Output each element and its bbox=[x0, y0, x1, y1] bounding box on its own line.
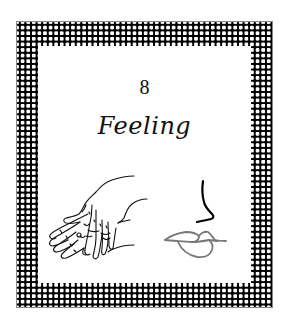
nose-icon bbox=[197, 181, 213, 222]
illustration-layer bbox=[0, 0, 287, 326]
lips-icon bbox=[165, 232, 226, 257]
hands-icon bbox=[50, 176, 147, 259]
